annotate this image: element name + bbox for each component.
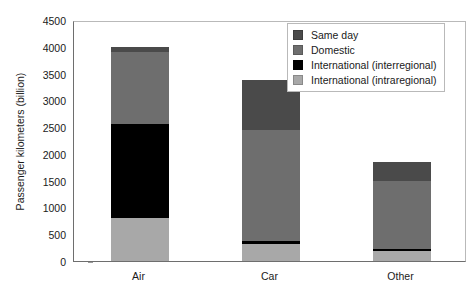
y-tick-label: 4000: [20, 42, 66, 54]
y-tick-label: 500: [20, 229, 66, 241]
x-tick-label-car: Car: [261, 270, 278, 282]
stacked-bar-chart: Passenger kilometers (billion) 450040003…: [0, 0, 474, 295]
y-tick-label: 2500: [20, 122, 66, 134]
bar-stack: [373, 162, 431, 261]
legend-label: International (intraregional): [311, 74, 437, 86]
y-tick-label: 2000: [20, 149, 66, 161]
legend-swatch-icon: [293, 45, 303, 55]
y-tick-label: 3500: [20, 69, 66, 81]
y-tick-label: 4500: [20, 15, 66, 27]
y-tick-label: 1500: [20, 176, 66, 188]
bar-segment[interactable]: [111, 52, 169, 124]
bar-segment[interactable]: [111, 124, 169, 218]
x-axis-tick-labels: AirCarOther: [73, 264, 466, 290]
legend-label: International (interregional): [311, 59, 437, 71]
legend-item[interactable]: International (interregional): [293, 58, 437, 72]
x-tick-label-other: Other: [387, 270, 413, 282]
legend-swatch-icon: [293, 60, 303, 70]
bar-segment[interactable]: [242, 244, 300, 261]
legend-item[interactable]: Domestic: [293, 43, 437, 57]
y-tick-label: 3000: [20, 95, 66, 107]
legend-label: Same day: [311, 29, 358, 41]
y-tick-label: 1000: [20, 202, 66, 214]
bar-segment[interactable]: [373, 181, 431, 249]
y-tick-mark: [88, 262, 93, 263]
bar-segment[interactable]: [242, 130, 300, 241]
bar-group-air[interactable]: [111, 20, 169, 261]
legend-swatch-icon: [293, 30, 303, 40]
bar-segment[interactable]: [373, 251, 431, 261]
chart-legend: Same dayDomesticInternational (interregi…: [287, 23, 445, 92]
bar-stack: [242, 80, 300, 261]
legend-item[interactable]: Same day: [293, 28, 437, 42]
legend-swatch-icon: [293, 75, 303, 85]
bar-stack: [111, 47, 169, 261]
legend-item[interactable]: International (intraregional): [293, 73, 437, 87]
legend-label: Domestic: [311, 44, 355, 56]
bar-segment[interactable]: [111, 218, 169, 261]
y-axis-tick-labels: 450040003500300025002000150010005000: [20, 21, 66, 262]
x-tick-label-air: Air: [132, 270, 145, 282]
bar-segment[interactable]: [373, 162, 431, 181]
y-tick-label: 0: [20, 256, 66, 268]
